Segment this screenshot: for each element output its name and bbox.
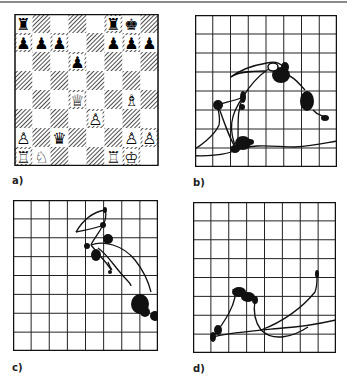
black-queen-icon: ♛	[52, 129, 66, 148]
fixation-blobs	[84, 207, 158, 321]
board-square	[87, 71, 105, 90]
board-square	[141, 71, 159, 90]
grid-board	[193, 202, 336, 353]
white-knight-icon: ♘	[34, 148, 48, 166]
panel-label-a: a)	[12, 175, 23, 186]
board-square	[51, 90, 69, 109]
board-square	[33, 90, 51, 109]
black-king-icon: ♚	[124, 15, 138, 34]
black-pawn-icon: ♟	[16, 34, 30, 53]
board-square	[33, 109, 51, 128]
board-square	[141, 109, 159, 128]
white-pawn-icon: ♙	[124, 129, 138, 148]
white-pawn-icon: ♙	[16, 129, 30, 148]
grid-board	[195, 15, 337, 167]
top-rule	[0, 1, 347, 3]
black-pawn-icon: ♟	[124, 34, 138, 53]
black-pawn-icon: ♟	[34, 34, 48, 53]
white-rook-icon: ♖	[16, 148, 30, 166]
board-square	[87, 14, 105, 33]
panel-b-eye-trace	[195, 15, 337, 167]
white-rook-icon: ♖	[106, 148, 120, 166]
board-square	[15, 71, 33, 90]
grid-board	[13, 200, 158, 351]
board-square	[51, 109, 69, 128]
black-rook-icon: ♜	[106, 15, 120, 34]
white-king-icon: ♔	[124, 148, 138, 166]
board-square	[33, 14, 51, 33]
white-pawn-icon: ♙	[88, 110, 102, 129]
board-square	[105, 90, 123, 109]
board-square	[33, 52, 51, 71]
black-pawn-icon: ♟	[70, 53, 84, 72]
black-pawn-icon: ♟	[52, 34, 66, 53]
board-square	[87, 90, 105, 109]
board-square	[141, 14, 159, 33]
panel-label-d: d)	[193, 363, 205, 374]
board-square	[51, 52, 69, 71]
board-square	[141, 52, 159, 71]
panel-label-c: c)	[12, 362, 23, 373]
chessboard: ♜♜♚♟♟♟♟♟♟♟♕♗♙♙♛♙♙♖♘♖♔	[14, 14, 159, 166]
board-square	[51, 14, 69, 33]
board-square	[69, 14, 87, 33]
black-rook-icon: ♜	[16, 15, 30, 34]
board-square	[87, 147, 105, 166]
black-pawn-icon: ♟	[142, 34, 156, 53]
board-square	[15, 52, 33, 71]
board-square	[141, 147, 159, 166]
white-queen-icon: ♕	[70, 91, 84, 110]
board-square	[69, 33, 87, 52]
panel-a-chessboard: ♜♜♚♟♟♟♟♟♟♟♕♗♙♙♛♙♙♖♘♖♔	[14, 14, 159, 166]
board-square	[69, 128, 87, 147]
board-square	[123, 109, 141, 128]
board-square	[69, 109, 87, 128]
black-pawn-icon: ♟	[106, 34, 120, 53]
board-square	[15, 109, 33, 128]
panel-c-eye-trace	[13, 200, 158, 351]
board-square	[87, 52, 105, 71]
white-pawn-icon: ♙	[142, 129, 156, 148]
board-square	[105, 52, 123, 71]
board-square	[69, 71, 87, 90]
board-square	[69, 147, 87, 166]
eye-movement-path	[213, 277, 336, 337]
white-bishop-icon: ♗	[124, 91, 138, 110]
board-square	[33, 128, 51, 147]
board-square	[33, 71, 51, 90]
board-square	[123, 71, 141, 90]
board-square	[105, 71, 123, 90]
board-square	[15, 90, 33, 109]
board-square	[51, 147, 69, 166]
board-square	[87, 33, 105, 52]
board-square	[87, 128, 105, 147]
panel-d-eye-trace	[193, 202, 336, 353]
board-square	[123, 52, 141, 71]
panel-label-b: b)	[193, 177, 205, 188]
board-square	[105, 109, 123, 128]
board-square	[51, 71, 69, 90]
board-square	[141, 90, 159, 109]
board-square	[105, 128, 123, 147]
